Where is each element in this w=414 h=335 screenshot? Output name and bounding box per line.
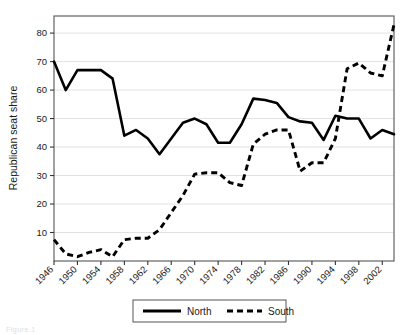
plot-frame [54, 16, 394, 261]
y-tick-label: 30 [36, 170, 47, 181]
x-tick-label: 1990 [291, 264, 314, 287]
x-tick-label: 1946 [33, 264, 56, 287]
legend-label-north: North [187, 306, 211, 317]
series-line-north [54, 62, 394, 155]
y-tick-labels-group: 1020304050607080 [36, 27, 47, 237]
y-tick-label: 80 [36, 27, 47, 38]
x-tick-label: 1982 [244, 264, 267, 287]
x-tick-label: 1962 [126, 264, 149, 287]
republican-seat-share-line-chart: 1020304050607080 19461950195419581962196… [0, 0, 414, 335]
gridlines-group [54, 33, 394, 232]
legend: North South [133, 300, 294, 322]
x-tick-label: 2002 [361, 264, 384, 287]
x-tick-label: 1978 [220, 264, 243, 287]
figure-caption: Figure 1 [6, 326, 36, 333]
data-series-group [54, 25, 394, 257]
series-line-south [54, 25, 394, 257]
x-tick-label: 1994 [314, 264, 337, 287]
legend-label-south: South [268, 306, 294, 317]
x-tick-label: 1986 [267, 264, 290, 287]
x-tick-label: 1954 [80, 264, 103, 287]
x-tick-label: 1958 [103, 264, 126, 287]
y-tick-label: 10 [36, 227, 47, 238]
y-tick-label: 60 [36, 84, 47, 95]
y-tick-label: 50 [36, 113, 47, 124]
figure-container: 1020304050607080 19461950195419581962196… [0, 0, 414, 335]
x-tick-labels-group: 1946195019541958196219661970197419781982… [33, 264, 384, 287]
x-tick-label: 1974 [197, 264, 220, 287]
x-tick-label: 1998 [338, 264, 361, 287]
y-tick-label: 70 [36, 56, 47, 67]
plot-frame-group [54, 16, 394, 261]
y-axis-title: Republican seat share [7, 86, 19, 191]
y-tick-label: 40 [36, 141, 47, 152]
x-tick-label: 1950 [56, 264, 79, 287]
x-tick-marks-group [54, 261, 382, 265]
y-tick-label: 20 [36, 198, 47, 209]
x-tick-label: 1966 [150, 264, 173, 287]
x-tick-label: 1970 [173, 264, 196, 287]
